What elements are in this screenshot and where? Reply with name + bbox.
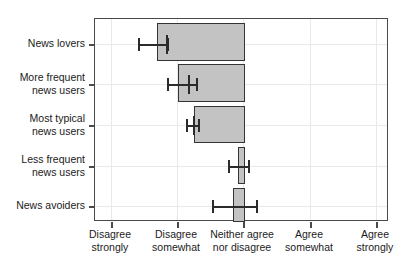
chart-figure: News lovers More frequent news users Mos… xyxy=(0,0,411,273)
y-axis-tick xyxy=(89,166,95,168)
error-bar-cap-low xyxy=(212,200,214,213)
bar-most-typical-news-users xyxy=(194,106,245,143)
error-bar-cap-high xyxy=(196,78,198,91)
x-axis-label-agree-somewhat: Agree somewhat xyxy=(269,228,349,253)
x-axis-label-agree-strongly: Agree strongly xyxy=(339,228,411,253)
plot-area xyxy=(94,18,388,221)
error-bar-cap-low xyxy=(228,160,230,173)
y-axis-label-most-typical-news-users: Most typical news users xyxy=(0,112,85,137)
gridline-vertical xyxy=(376,19,377,220)
y-axis-tick xyxy=(89,44,95,46)
error-bar-line xyxy=(138,44,169,46)
y-axis-tick xyxy=(89,84,95,86)
error-bar-center-tick xyxy=(188,75,190,94)
y-axis-tick xyxy=(89,125,95,127)
error-bar-center-tick xyxy=(166,35,168,54)
error-bar-line xyxy=(212,206,258,208)
bar-news-avoiders xyxy=(233,188,245,222)
error-bar-cap-high xyxy=(198,119,200,132)
error-bar-cap-high xyxy=(248,160,250,173)
y-axis-label-news-avoiders: News avoiders xyxy=(0,199,85,212)
y-axis-tick xyxy=(89,206,95,208)
y-axis-label-less-frequent-news-users: Less frequent news users xyxy=(0,153,85,178)
gridline-vertical xyxy=(111,19,112,220)
error-bar-line xyxy=(228,166,250,168)
error-bar-cap-low xyxy=(167,78,169,91)
y-axis-label-news-lovers: News lovers xyxy=(0,37,85,50)
error-bar-cap-low xyxy=(186,119,188,132)
y-axis-label-more-frequent-news-users: More frequent news users xyxy=(0,71,85,96)
bar-news-lovers xyxy=(157,23,245,61)
error-bar-line xyxy=(167,84,198,86)
gridline-vertical xyxy=(310,19,311,220)
error-bar-center-tick xyxy=(193,116,195,135)
error-bar-cap-low xyxy=(138,38,140,51)
error-bar-cap-high xyxy=(256,200,258,213)
